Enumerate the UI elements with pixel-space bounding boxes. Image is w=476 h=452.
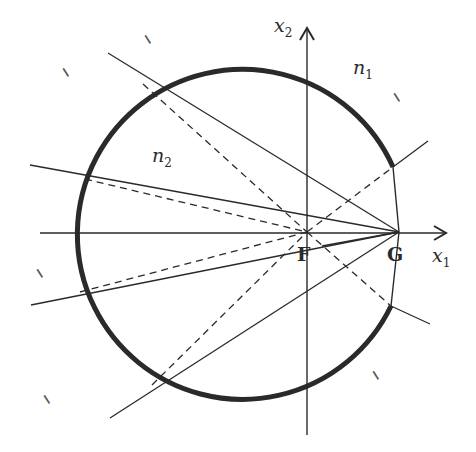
ray-dashed-5	[307, 167, 393, 232]
x1-axis-label: x1	[432, 244, 450, 266]
region-n2-label: n2	[152, 144, 172, 166]
ray-solid-3	[31, 232, 399, 305]
x2-label-sub: 2	[285, 26, 293, 40]
boundary-thin-top	[393, 167, 399, 232]
ray-solid-upper-right	[393, 141, 428, 167]
diagram-canvas: x2 x1 F G n1 n2 // // // // // //	[0, 0, 476, 452]
ray-dashed-6	[307, 232, 391, 306]
point-G-label: G	[387, 243, 403, 265]
boundary-curve	[77, 69, 393, 399]
ray-dashed-3	[80, 232, 307, 292]
n2-label-sub: 2	[164, 156, 172, 170]
x2-axis-label: x2	[274, 14, 292, 36]
x2-label-text: x	[274, 14, 285, 36]
region-n1-label: n1	[353, 56, 373, 78]
ray-dashed-2	[85, 179, 307, 232]
point-F-label: F	[297, 243, 311, 265]
n1-label-sub: 1	[365, 68, 373, 82]
n2-label-text: n	[152, 144, 164, 166]
ray-diagram	[0, 0, 476, 452]
ray-dashed-4	[152, 232, 307, 385]
ray-solid-4	[110, 232, 399, 418]
x1-label-text: x	[432, 244, 443, 266]
ray-solid-lower-right	[391, 306, 430, 324]
n1-label-text: n	[353, 56, 365, 78]
x1-label-sub: 1	[443, 256, 451, 270]
